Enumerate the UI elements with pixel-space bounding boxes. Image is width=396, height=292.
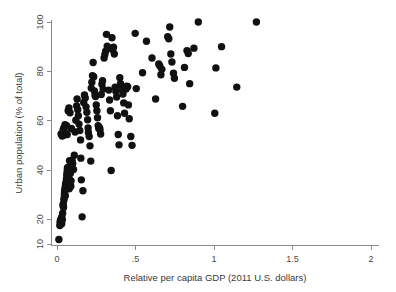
data-point — [93, 107, 100, 114]
y-axis-title: Urban population (% of total) — [13, 73, 24, 194]
data-point — [71, 152, 78, 159]
data-point — [131, 30, 138, 37]
data-point — [127, 133, 134, 140]
data-point — [171, 75, 178, 82]
data-point — [233, 83, 240, 90]
data-point — [78, 176, 85, 183]
data-point — [126, 115, 133, 122]
data-point — [106, 96, 113, 103]
data-point — [185, 50, 192, 57]
data-point — [167, 50, 174, 57]
data-point — [190, 44, 197, 51]
data-point — [70, 166, 77, 173]
data-point — [152, 95, 159, 102]
x-tick-label-1.5: 1.5 — [286, 254, 299, 264]
data-point — [97, 130, 104, 137]
chart-canvas: 1020406080100 Urban population (% of tot… — [0, 0, 396, 292]
x-tick-label-.5: .5 — [132, 254, 140, 264]
data-point — [94, 114, 101, 121]
data-point — [212, 64, 219, 71]
y-tick-label-60: 60 — [35, 116, 45, 126]
data-point — [62, 192, 69, 199]
data-point — [78, 213, 85, 220]
x-tick-label-2: 2 — [368, 254, 373, 264]
data-point — [75, 120, 82, 127]
x-tick-label-0: 0 — [54, 254, 59, 264]
y-tick-label-100: 100 — [35, 14, 45, 29]
data-point — [115, 131, 122, 138]
data-point — [113, 93, 120, 100]
data-point — [59, 216, 66, 223]
data-point — [114, 112, 121, 119]
data-point — [77, 154, 84, 161]
x-tick-label-1: 1 — [211, 254, 216, 264]
scatter-plot-figure: 1020406080100 Urban population (% of tot… — [0, 0, 396, 292]
data-point — [86, 142, 93, 149]
data-point — [87, 157, 94, 164]
data-point — [128, 142, 135, 149]
data-point — [75, 112, 82, 119]
data-point — [181, 64, 188, 71]
data-point — [90, 73, 97, 80]
y-tick-label-10: 10 — [35, 239, 45, 249]
data-point — [148, 54, 155, 61]
data-point — [139, 69, 146, 76]
data-point — [108, 34, 115, 41]
data-point — [99, 77, 106, 84]
data-point — [107, 107, 114, 114]
data-point — [107, 167, 114, 174]
data-point — [85, 133, 92, 140]
data-point — [67, 177, 74, 184]
data-point — [253, 18, 260, 25]
plot-background — [0, 0, 396, 292]
data-point — [77, 136, 84, 143]
data-point — [143, 38, 150, 45]
data-point — [55, 236, 62, 243]
data-point — [166, 23, 173, 30]
data-point — [186, 80, 193, 87]
data-point — [195, 18, 202, 25]
data-point — [66, 109, 73, 116]
data-point — [124, 83, 131, 90]
data-point — [76, 127, 83, 134]
y-tick-label-80: 80 — [35, 66, 45, 76]
data-point — [111, 50, 118, 57]
data-point — [82, 94, 89, 101]
data-point — [105, 86, 112, 93]
data-point — [168, 58, 175, 65]
x-axis-title: Relative per capita GDP (2011 U.S. dolla… — [124, 272, 307, 283]
data-point — [211, 110, 218, 117]
data-point — [218, 43, 225, 50]
y-tick-label-40: 40 — [35, 165, 45, 175]
y-tick-label-20: 20 — [35, 214, 45, 224]
data-point — [73, 95, 80, 102]
data-point — [179, 103, 186, 110]
data-point — [89, 59, 96, 66]
data-point — [125, 101, 132, 108]
data-point — [133, 85, 140, 92]
data-point — [115, 141, 122, 148]
data-point — [158, 66, 165, 73]
data-point — [110, 43, 117, 50]
data-point — [83, 109, 90, 116]
data-point — [63, 131, 70, 138]
data-point — [84, 116, 91, 123]
data-point — [60, 204, 67, 211]
data-point — [79, 187, 86, 194]
data-point — [165, 35, 172, 42]
